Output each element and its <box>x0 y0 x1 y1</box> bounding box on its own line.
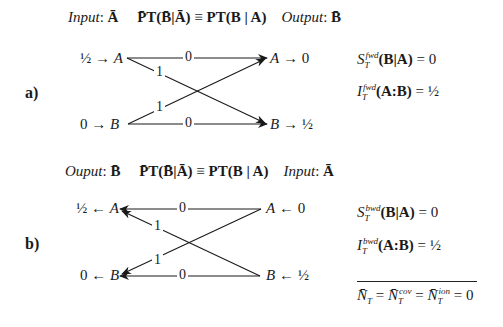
subscript: T <box>365 213 370 223</box>
superscript: ion <box>439 286 451 296</box>
subscript: T <box>367 296 372 306</box>
result-value: = 0 <box>418 204 438 220</box>
symbol: S <box>357 204 365 220</box>
superscript: bwd <box>366 203 381 213</box>
summary-value: = 0 <box>454 287 474 303</box>
subscript: T <box>438 296 443 306</box>
subscript: T <box>362 246 367 256</box>
n-ion-symbol: N̄ <box>428 287 438 303</box>
result-value: = ½ <box>418 237 441 253</box>
b-edge-ab-weight: 1 <box>152 252 163 268</box>
subscript: T <box>398 296 403 306</box>
superscript: cov <box>399 286 412 296</box>
b-edge-ba-weight: 1 <box>152 218 163 234</box>
argument: (A:B) <box>378 237 414 253</box>
b-edge-aa-weight: 0 <box>177 200 188 216</box>
superscript: bwd <box>363 236 378 246</box>
b-result-entropy: STbwd(B|A) = 0 <box>357 203 438 223</box>
b-edge-bb-weight: 0 <box>177 267 188 283</box>
b-result-info: ITbwd(A:B) = ½ <box>357 236 441 256</box>
n-cov-symbol: N̄ <box>388 287 398 303</box>
summary-equation: N̄T = N̄Tcov = N̄Tion = 0 <box>357 286 474 306</box>
n-symbol: N̄ <box>357 287 367 303</box>
equals-sign: = <box>415 287 423 303</box>
equals-sign: = <box>376 287 384 303</box>
summary-divider <box>357 281 477 282</box>
argument: (B|A) <box>381 204 415 220</box>
panel-b-edges <box>0 0 503 327</box>
